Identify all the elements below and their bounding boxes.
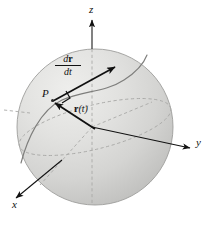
sphere-body (17, 49, 173, 205)
y-axis-label: y (196, 137, 201, 148)
derivative-numerator-r: r (68, 53, 72, 64)
derivative-vector-label: dr dt (55, 54, 81, 77)
derivative-numerator: dr (55, 54, 81, 65)
x-axis-label: x (12, 199, 17, 210)
z-axis-label: z (89, 4, 93, 15)
point-p-label: P (42, 88, 49, 99)
diagram-canvas (0, 0, 212, 233)
position-vector-label: r(t) (74, 104, 88, 114)
position-vector-label-arg: (t) (78, 103, 87, 114)
vector-on-sphere-diagram: z y x P r(t) dr dt (0, 0, 212, 233)
derivative-denominator: dt (55, 67, 81, 78)
point-p-marker (51, 99, 54, 102)
